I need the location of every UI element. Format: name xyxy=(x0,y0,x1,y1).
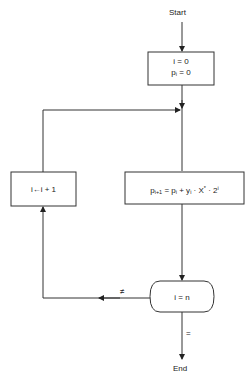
loop-return-line xyxy=(43,110,180,172)
init-line-1: i = 0 xyxy=(148,56,214,67)
end-label: End xyxy=(173,365,187,373)
start-label: Start xyxy=(169,9,186,17)
compute-box-text: pi+1 = pi + yi · X* · 2i xyxy=(125,183,244,198)
decision-text: i = n xyxy=(150,292,214,303)
increment-box-text: i←i + 1 xyxy=(11,184,76,195)
init-box-text: i = 0 pi = 0 xyxy=(148,56,214,80)
not-equal-label: ≠ xyxy=(120,288,124,296)
equal-label: = xyxy=(186,330,191,338)
init-line-2: pi = 0 xyxy=(148,67,214,80)
